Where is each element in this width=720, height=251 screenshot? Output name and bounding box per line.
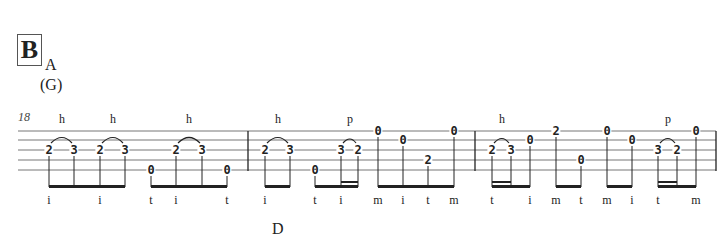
fret-number: 2: [171, 144, 180, 156]
fret-number: 3: [197, 144, 206, 156]
fret-number: 2: [44, 144, 53, 156]
fret-number: 0: [373, 125, 382, 137]
technique-mark: p: [665, 112, 671, 127]
finger-label: t: [149, 193, 152, 208]
fret-number: 2: [487, 144, 496, 156]
finger-label: i: [630, 193, 633, 208]
finger-label: i: [174, 193, 177, 208]
finger-label: m: [449, 193, 458, 208]
fret-number: 2: [551, 125, 560, 137]
finger-label: i: [528, 193, 531, 208]
fret-number: 0: [222, 164, 231, 176]
finger-label: m: [602, 193, 611, 208]
fret-number: 0: [602, 125, 611, 137]
fret-number: 0: [525, 134, 534, 146]
finger-label: m: [551, 193, 560, 208]
tab-staff: [0, 0, 720, 251]
fret-number: 2: [672, 144, 681, 156]
fret-number: 0: [691, 125, 700, 137]
fret-number: 3: [285, 144, 294, 156]
fret-number: 0: [146, 164, 155, 176]
finger-label: i: [339, 193, 342, 208]
finger-label: i: [263, 193, 266, 208]
finger-label: i: [401, 193, 404, 208]
fret-number: 2: [260, 144, 269, 156]
finger-label: t: [225, 193, 228, 208]
fret-number: 2: [95, 144, 104, 156]
fret-number: 0: [627, 134, 636, 146]
fret-number: 0: [449, 125, 458, 137]
finger-label: m: [691, 193, 700, 208]
finger-label: i: [98, 193, 101, 208]
fret-number: 0: [310, 164, 319, 176]
technique-mark: p: [347, 112, 353, 127]
technique-mark: h: [59, 112, 65, 127]
finger-label: t: [490, 193, 493, 208]
fret-number: 0: [576, 154, 585, 166]
finger-label: i: [47, 193, 50, 208]
fret-number: 3: [506, 144, 515, 156]
finger-label: m: [373, 193, 382, 208]
fret-number: 3: [120, 144, 129, 156]
finger-label: t: [426, 193, 429, 208]
fret-number: 0: [398, 134, 407, 146]
finger-label: t: [313, 193, 316, 208]
fret-number: 3: [69, 144, 78, 156]
technique-mark: h: [110, 112, 116, 127]
fret-number: 3: [653, 144, 662, 156]
fret-number: 2: [423, 154, 432, 166]
technique-mark: h: [499, 112, 505, 127]
finger-label: t: [656, 193, 659, 208]
technique-mark: h: [275, 112, 281, 127]
technique-mark: h: [186, 112, 192, 127]
fret-number: 3: [336, 144, 345, 156]
fret-number: 2: [353, 144, 362, 156]
finger-label: t: [579, 193, 582, 208]
